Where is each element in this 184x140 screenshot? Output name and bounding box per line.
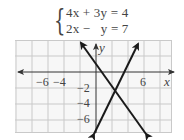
y-tick-neg2: −2	[77, 81, 90, 95]
x-axis-label: x	[163, 74, 170, 89]
x-tick-neg4: −4	[53, 75, 66, 89]
coordinate-graph: −6 −4 6 −2 −4 −6 x y	[0, 0, 184, 140]
x-tick-6: 6	[140, 75, 146, 89]
y-tick-neg6: −6	[77, 112, 90, 126]
x-tick-neg6: −6	[36, 75, 49, 89]
y-tick-neg4: −4	[77, 96, 90, 110]
y-axis-label: y	[97, 40, 105, 55]
